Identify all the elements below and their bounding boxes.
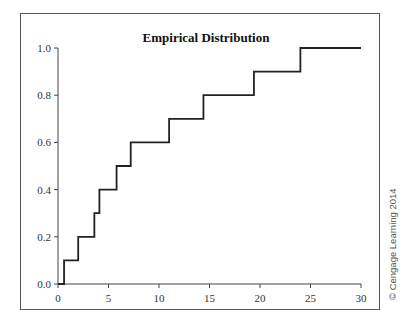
y-tick-label: 1.0 bbox=[37, 42, 51, 54]
x-tick-label: 10 bbox=[154, 292, 166, 304]
chart-title: Empirical Distribution bbox=[143, 30, 271, 45]
ecdf-step-line bbox=[58, 48, 361, 284]
y-tick-label: 0.6 bbox=[37, 136, 51, 148]
ecdf-chart: Empirical Distribution 0.00.20.40.60.81.… bbox=[0, 0, 412, 333]
x-tick-label: 15 bbox=[204, 292, 216, 304]
x-tick-label: 20 bbox=[255, 292, 267, 304]
x-tick-label: 30 bbox=[356, 292, 368, 304]
y-tick-label: 0.0 bbox=[37, 278, 51, 290]
x-tick-label: 5 bbox=[106, 292, 112, 304]
axes: 0.00.20.40.60.81.0051015202530 bbox=[37, 42, 367, 304]
x-tick-label: 25 bbox=[305, 292, 317, 304]
x-tick-label: 0 bbox=[55, 292, 61, 304]
y-tick-label: 0.4 bbox=[37, 184, 51, 196]
copyright-credit: © Cengage Learning 2014 bbox=[387, 188, 398, 300]
y-tick-label: 0.2 bbox=[37, 231, 51, 243]
y-tick-label: 0.8 bbox=[37, 89, 51, 101]
